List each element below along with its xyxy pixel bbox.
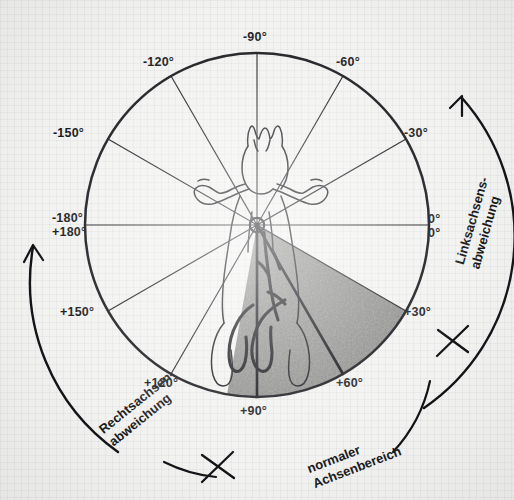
tick-label-minus-180: -180°	[52, 211, 83, 225]
tick-label-zero-upper: 0°	[428, 212, 440, 226]
diagram-svg	[0, 0, 514, 500]
tick-label-minus-90: -90°	[243, 30, 267, 44]
figure-canvas: -90° -120° -150° -180° +180° +150° +120°…	[0, 0, 514, 500]
left-axis-arrowhead	[450, 96, 462, 116]
tick-label-plus-180: +180°	[52, 225, 86, 239]
tick-label-minus-30: -30°	[404, 126, 428, 140]
tick-label-plus-150: +150°	[60, 305, 94, 319]
tick-label-minus-150: -150°	[53, 126, 84, 140]
normal-range-leader	[393, 381, 430, 452]
tick-label-minus-60: -60°	[336, 55, 360, 69]
tick-label-plus-30: +30°	[404, 305, 431, 319]
right-axis-arrowhead	[24, 245, 43, 262]
normal-axis-sector	[227, 225, 406, 397]
tick-label-plus-60: +60°	[336, 376, 363, 390]
tick-label-zero-lower: 0°	[428, 226, 440, 240]
tick-label-minus-120: -120°	[143, 55, 174, 69]
tick-label-plus-90: +90°	[240, 404, 267, 418]
